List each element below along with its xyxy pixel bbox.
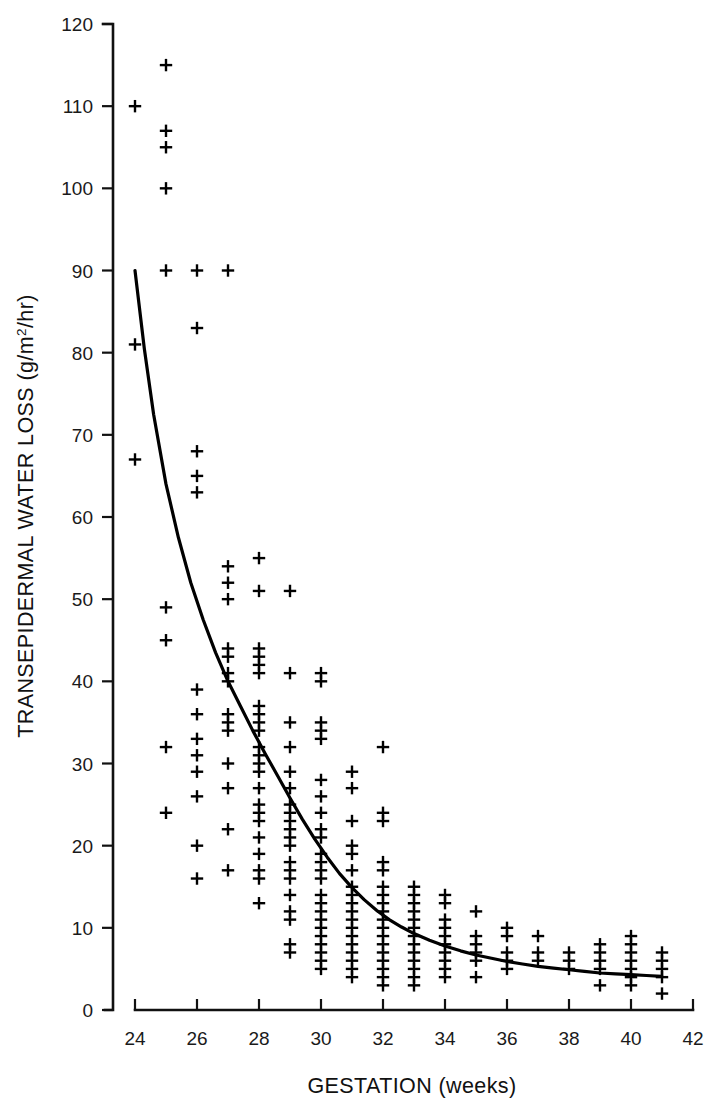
data-point [284,716,296,728]
y-axis-tick-label: 120 [61,14,93,35]
data-point [377,979,389,991]
data-point [191,749,203,761]
data-point [315,872,327,884]
y-axis-ticks [102,24,113,1010]
data-point [346,766,358,778]
data-point [191,322,203,334]
y-axis-title: TRANSEPIDERMAL WATER LOSS (g/m2/hr) [14,294,38,738]
x-axis-tick-label: 32 [372,1028,393,1049]
data-point [346,782,358,794]
data-point [191,445,203,457]
y-axis-title-tail: /hr) [14,294,38,328]
y-axis-tick-label: 110 [63,96,93,117]
y-axis-tick-labels: 0102030405060708090100110120 [61,14,93,1021]
data-point [439,971,451,983]
data-point [284,741,296,753]
data-point [532,930,544,942]
data-point [222,650,234,662]
data-point [222,264,234,276]
data-point [253,782,265,794]
data-point [222,560,234,572]
data-point [346,815,358,827]
y-axis-tick-label: 30 [72,754,93,775]
y-axis-title-main: TRANSEPIDERMAL WATER LOSS (g/m [14,336,38,738]
data-point [160,125,172,137]
data-point [191,733,203,745]
y-axis-tick-label: 90 [72,261,93,282]
data-point [160,601,172,613]
data-point [315,807,327,819]
y-axis-tick-label: 20 [72,836,93,857]
figure-container: 0102030405060708090100110120 24262830323… [0,0,710,1119]
data-point [253,897,265,909]
data-point [377,741,389,753]
data-point [160,264,172,276]
x-axis: 24262830323436384042 [124,999,703,1049]
data-point [191,486,203,498]
data-point [346,848,358,860]
data-point [191,872,203,884]
data-point [377,815,389,827]
data-point [253,872,265,884]
y-axis-tick-label: 80 [72,343,93,364]
data-point [222,757,234,769]
x-axis-tick-label: 40 [620,1028,641,1049]
data-point [160,182,172,194]
regression-curve [135,271,662,977]
data-point [284,766,296,778]
y-axis-tick-label: 50 [72,589,93,610]
data-point [315,790,327,802]
data-point [222,823,234,835]
data-point [346,971,358,983]
data-point [191,470,203,482]
data-point [191,264,203,276]
data-point [253,848,265,860]
data-point [470,905,482,917]
y-axis-tick-label: 0 [82,1000,93,1021]
data-point [160,634,172,646]
data-point [439,897,451,909]
y-axis-tick-label: 100 [61,178,93,199]
data-point [253,667,265,679]
data-point [222,864,234,876]
data-point [191,708,203,720]
data-point [284,839,296,851]
data-point [253,831,265,843]
data-point [346,864,358,876]
data-point-markers [129,59,668,1000]
data-point [160,59,172,71]
data-point [129,338,141,350]
y-axis-tick-label: 70 [72,425,93,446]
data-point [284,889,296,901]
data-point [253,552,265,564]
data-point [253,815,265,827]
data-point [191,683,203,695]
data-point [160,807,172,819]
data-point [625,979,637,991]
data-point [222,577,234,589]
data-point [222,593,234,605]
x-axis-tick-label: 42 [682,1028,703,1049]
data-point [222,724,234,736]
x-axis-tick-label: 30 [310,1028,331,1049]
data-point [129,100,141,112]
data-point [594,979,606,991]
x-axis-tick-label: 36 [496,1028,517,1049]
data-point [191,790,203,802]
x-axis-tick-label: 24 [124,1028,146,1049]
y-axis-title-superscript: 2 [14,328,29,336]
x-axis-title: GESTATION (weeks) [307,1074,516,1098]
data-point [315,675,327,687]
data-point [501,963,513,975]
data-point [501,930,513,942]
data-point [408,979,420,991]
data-point [656,987,668,999]
data-point [191,766,203,778]
x-axis-ticks [135,999,693,1010]
y-axis: 0102030405060708090100110120 [61,14,113,1021]
data-point [253,766,265,778]
data-point [129,453,141,465]
data-point [253,585,265,597]
x-axis-tick-label: 28 [248,1028,269,1049]
x-axis-tick-label: 34 [434,1028,456,1049]
